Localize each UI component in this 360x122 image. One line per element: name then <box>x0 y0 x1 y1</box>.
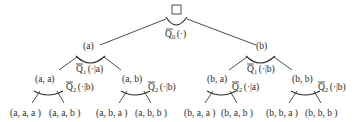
node-a-label: (a) <box>83 41 94 52</box>
node-ba: (b, a) Q2(·|a) (b, a, a ) (b, a, b ) <box>184 74 259 119</box>
leaf-abb: (a, b, b ) <box>135 108 167 119</box>
node-aa: (a, a) Q2(·|b) (a, a, a ) (a, a, b ) <box>10 74 94 119</box>
node-b-label: (b) <box>256 41 267 52</box>
leaf-bba: (b, b, a ) <box>266 108 298 119</box>
node-bb-label: (b, b) <box>292 74 313 85</box>
leaf-bbb: (b, b, b ) <box>305 108 337 119</box>
root-operator: Q0(·) <box>165 29 186 40</box>
leaf-aab: (a, a, b ) <box>49 108 80 119</box>
node-ab-label: (a, b) <box>122 74 142 85</box>
leaf-aaa: (a, a, a ) <box>10 108 41 119</box>
edge-root-b <box>187 19 256 45</box>
node-a-arc <box>76 56 105 63</box>
node-b-operator: Q1(·|b) <box>247 64 275 75</box>
node-bb: (b, b) Q2(·|b) (b, b, a ) (b, b, b ) <box>266 74 346 119</box>
node-ab-operator: Q2(·|b) <box>148 82 176 93</box>
edge-a-ab <box>104 57 121 70</box>
node-a-operator: Q1(·|a) <box>76 64 103 75</box>
node-a: (a) Q1(·|a) <box>59 41 121 75</box>
node-ba-label: (b, a) <box>207 74 227 85</box>
node-aa-operator: Q2(·|b) <box>66 82 94 93</box>
node-ba-operator: Q2(·|a) <box>232 82 259 93</box>
root-node: Q0(·) <box>100 5 256 45</box>
edge-b-bb <box>274 57 292 70</box>
node-b: (b) Q1(·|b) <box>229 41 292 75</box>
edge-b-ba <box>229 57 247 70</box>
node-aa-label: (a, a) <box>35 74 55 85</box>
edge-a-aa <box>59 57 77 70</box>
root-arc <box>166 17 187 25</box>
leaf-baa: (b, a, a ) <box>184 108 215 119</box>
leaf-bab: (b, a, b ) <box>221 108 253 119</box>
tree-diagram: Q0(·) (a) Q1(·|a) (b) Q1(·|b) (a, a) Q2(… <box>0 0 360 122</box>
node-ab: (a, b) Q2(·|b) (a, b, a ) (a, b, b ) <box>96 74 176 119</box>
root-box-icon <box>172 5 181 14</box>
node-b-arc <box>246 56 275 63</box>
edge-root-a <box>100 19 166 45</box>
node-bb-operator: Q2(·|b) <box>318 82 346 93</box>
leaf-aba: (a, b, a ) <box>96 108 127 119</box>
